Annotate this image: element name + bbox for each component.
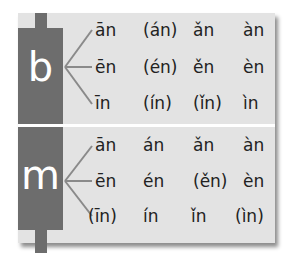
syllable-row-m-in: (īn) ín ǐn (ìn)	[88, 206, 284, 230]
syllable: (īn)	[88, 206, 143, 230]
syllable: (én)	[143, 57, 193, 81]
syllable: ān	[95, 20, 143, 44]
syllable: ěn	[193, 57, 243, 81]
syllable: ēn	[95, 57, 143, 81]
syllable: ǎn	[193, 135, 243, 159]
syllable: ǎn	[193, 20, 243, 44]
syllable: ēn	[95, 171, 143, 195]
syllable: ǐn	[191, 206, 235, 230]
syllable: ín	[143, 206, 191, 230]
syllable: én	[143, 171, 193, 195]
syllable-row-m-en: ēn én (ěn) èn	[95, 171, 284, 195]
syllable: ān	[95, 135, 143, 159]
syllable: àn	[243, 20, 284, 44]
syllable: án	[143, 135, 193, 159]
syllable-row-m-an: ān án ǎn àn	[95, 135, 284, 159]
syllable: (ǐn)	[193, 93, 243, 117]
syllable: (ěn)	[193, 171, 243, 195]
syllable: (ìn)	[235, 206, 284, 230]
syllable: (án)	[143, 20, 193, 44]
syllable: àn	[243, 135, 284, 159]
syllable-row-b-an: ān (án) ǎn àn	[95, 20, 284, 44]
syllable: īn	[95, 93, 143, 117]
syllable: èn	[243, 171, 284, 195]
syllable: (ín)	[143, 93, 193, 117]
syllable-row-b-en: ēn (én) ěn èn	[95, 57, 284, 81]
syllable-row-b-in: īn (ín) (ǐn) ìn	[95, 93, 284, 117]
syllable: ìn	[243, 93, 284, 117]
syllable: èn	[243, 57, 284, 81]
